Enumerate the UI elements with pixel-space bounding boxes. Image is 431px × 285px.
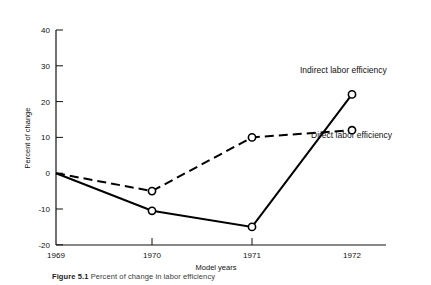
y-tick-label-20: 20	[41, 98, 50, 107]
data-point-direct-1971	[248, 223, 255, 230]
y-tick-label-40: 40	[41, 26, 50, 35]
data-point-indirect-1971	[248, 134, 255, 141]
x-axis	[56, 238, 386, 245]
data-point-direct-1972	[348, 91, 355, 98]
y-tick-label-0: 0	[46, 169, 51, 178]
x-tick-label-1969: 1969	[47, 251, 65, 260]
x-tick-label-1970: 1970	[143, 251, 161, 260]
y-tick-label-neg20: -20	[38, 241, 50, 250]
direct-labor-efficiency-line	[56, 94, 352, 227]
figure-container: 40 30 20 10 0 -10 -20 1969 1970 1971 197…	[0, 0, 431, 285]
y-tick-label-neg10: -10	[38, 205, 50, 214]
x-axis-title: Model years	[196, 263, 237, 272]
y-tick-label-30: 30	[41, 62, 50, 71]
annotation-direct-labor-efficiency: Direct labor efficiency	[311, 130, 393, 140]
y-axis	[56, 30, 63, 245]
x-tick-label-1971: 1971	[243, 251, 261, 260]
line-chart: 40 30 20 10 0 -10 -20 1969 1970 1971 197…	[0, 0, 431, 285]
indirect-labor-efficiency-line	[56, 130, 352, 191]
data-point-indirect-1970	[148, 188, 155, 195]
figure-caption-body: Percent of change in labor efficiency	[91, 272, 215, 281]
data-point-direct-1970	[148, 207, 155, 214]
y-tick-label-10: 10	[41, 133, 50, 142]
y-axis-title: Percent of change	[23, 108, 32, 169]
annotation-indirect-labor-efficiency: Indirect labor efficiency	[300, 65, 388, 75]
series-direct-labor-efficiency	[56, 91, 356, 231]
x-tick-label-1972: 1972	[343, 251, 361, 260]
figure-caption: Figure 5.1 Percent of change in labor ef…	[52, 272, 215, 281]
figure-caption-number: Figure 5.1	[52, 272, 88, 281]
